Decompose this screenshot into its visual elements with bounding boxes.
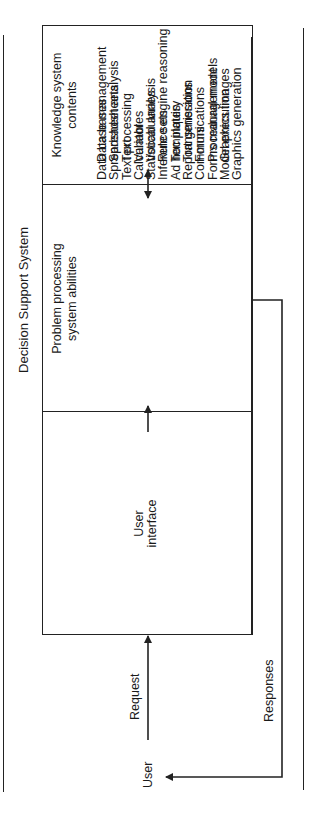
- request-label: Request: [128, 673, 142, 720]
- responses-label: Responses: [262, 659, 276, 722]
- dss-diagram: Decision Support System User interface P…: [0, 0, 319, 820]
- user-label: User: [141, 762, 155, 788]
